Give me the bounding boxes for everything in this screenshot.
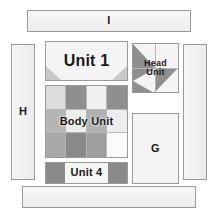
sashing-bar-bottom[interactable] — [22, 186, 196, 208]
unit-4-label: Unit 4 — [71, 167, 103, 179]
head-unit-label: Head Unit — [144, 59, 167, 78]
body-unit-cell — [66, 133, 86, 157]
sashing-bar-top-label: I — [107, 15, 110, 27]
body-unit-cell — [87, 133, 107, 157]
body-unit-cell — [46, 86, 66, 110]
g-block-label: G — [151, 143, 160, 155]
unit-4-segment — [46, 163, 65, 183]
unit-4-block[interactable]: Unit 4 — [45, 162, 128, 184]
body-unit-cell — [107, 133, 127, 157]
unit-1-block[interactable]: Unit 1 — [45, 41, 128, 81]
quilt-layout-diagram: I H Unit 1 Head Unit Body Unit Unit 4 G — [0, 0, 218, 216]
g-block[interactable]: G — [132, 113, 179, 184]
sashing-strip-right[interactable] — [183, 44, 207, 180]
body-unit-cell — [46, 133, 66, 157]
triangle-bottom-right-icon — [112, 66, 127, 80]
triangle-bottom-left-icon — [46, 66, 61, 80]
sashing-strip-left-label: H — [19, 106, 27, 118]
body-unit-label: Body Unit — [60, 116, 114, 128]
body-unit-block[interactable]: Body Unit — [45, 85, 128, 158]
body-unit-cell — [66, 86, 86, 110]
sashing-bar-top[interactable]: I — [27, 10, 191, 32]
body-unit-cell — [87, 86, 107, 110]
head-unit-block[interactable]: Head Unit — [132, 43, 179, 93]
sashing-strip-left[interactable]: H — [11, 44, 35, 180]
unit-1-label: Unit 1 — [64, 53, 110, 70]
body-unit-cell — [107, 86, 127, 110]
unit-4-segment — [108, 163, 127, 183]
